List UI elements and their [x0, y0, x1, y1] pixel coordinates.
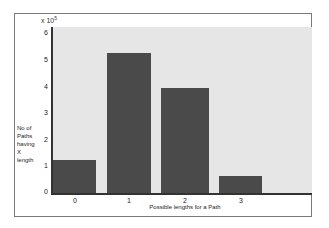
y-tick-5: 5: [38, 56, 48, 63]
x-tick-2: 2: [175, 197, 195, 204]
x-tick-0: 0: [65, 197, 85, 204]
x-tick-3: 3: [231, 197, 251, 204]
y-axis: [51, 27, 53, 195]
bar-1: [107, 53, 151, 193]
y-tick-4: 4: [38, 83, 48, 90]
y-tick-3: 3: [38, 109, 48, 116]
y-axis-label: No of Paths having X length: [17, 124, 47, 164]
bar-2: [161, 88, 209, 193]
x-axis-label: Possible lengths for a Path: [120, 204, 250, 210]
bar-3: [219, 176, 262, 193]
x-axis: [51, 193, 312, 195]
y-tick-6: 6: [38, 29, 48, 36]
y-tick-0: 0: [38, 188, 48, 195]
x-tick-1: 1: [119, 197, 139, 204]
y-multiplier: x 105: [41, 15, 57, 24]
bar-0: [53, 160, 96, 193]
